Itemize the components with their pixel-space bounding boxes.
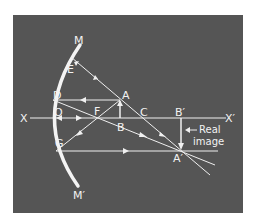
label-a: A — [122, 89, 130, 102]
label-b-prime: B′ — [175, 106, 186, 119]
label-c: C — [140, 106, 148, 119]
label-x-prime: X′ — [225, 112, 236, 125]
label-e: E — [67, 63, 74, 76]
label-m-prime: M′ — [73, 189, 85, 202]
concave-mirror-ray-diagram: M M′ X X′ E D O F G A B C B′ A′ Real ima… — [0, 0, 254, 222]
label-d: D — [53, 89, 61, 102]
label-m: M — [74, 34, 84, 47]
label-image: image — [193, 136, 224, 147]
label-g: G — [55, 137, 64, 150]
diagram-background — [13, 15, 243, 213]
label-f: F — [94, 105, 100, 118]
label-a-prime: A′ — [173, 152, 184, 165]
label-x: X — [20, 112, 28, 125]
label-b: B — [117, 121, 125, 134]
label-o: O — [54, 106, 63, 119]
label-real: Real — [199, 124, 221, 135]
